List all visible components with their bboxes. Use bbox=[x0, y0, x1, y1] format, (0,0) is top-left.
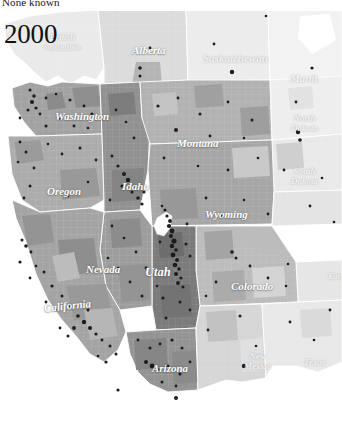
legend-caption-strip: None known bbox=[0, 0, 342, 11]
map-canvas[interactable]: 2000 British ColumbiaAlbertaSaskatchewan… bbox=[0, 10, 342, 446]
map-figure: None known bbox=[0, 0, 342, 446]
year-label: 2000 bbox=[4, 21, 57, 48]
region-united-states bbox=[8, 76, 342, 392]
legend-none-known-label: None known bbox=[2, 0, 60, 8]
map-graphic bbox=[0, 10, 342, 446]
